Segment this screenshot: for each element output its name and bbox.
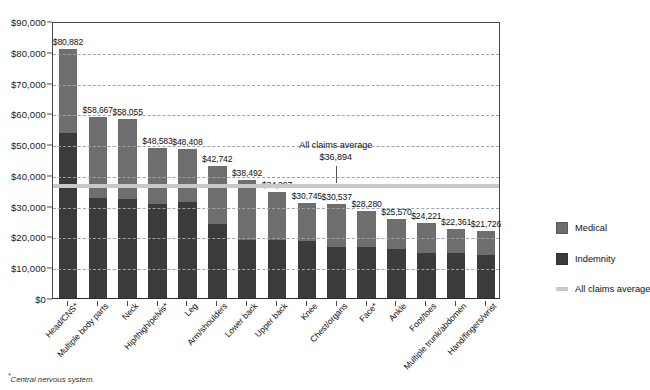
bar-segment-medical[interactable]	[298, 203, 317, 241]
bar-segment-indemnity[interactable]	[417, 253, 436, 298]
bar-value-label: $25,570	[381, 207, 411, 217]
average-annotation-label: All claims average	[276, 140, 396, 152]
y-axis: $0$10,000$20,000$30,000$40,000$50,000$60…	[0, 22, 52, 299]
bar-segment-medical[interactable]	[327, 204, 346, 247]
x-axis-labels: Head/CNS*Multiple body partsNeckHip/thig…	[52, 301, 500, 387]
bar-segment-indemnity[interactable]	[148, 204, 167, 298]
bar-segment-medical[interactable]	[238, 180, 257, 241]
bar-segment-indemnity[interactable]	[59, 133, 78, 298]
bar-segment-indemnity[interactable]	[89, 198, 108, 298]
bar-segment-medical[interactable]	[208, 166, 227, 224]
bar-segment-medical[interactable]	[477, 231, 496, 255]
bar-value-label: $24,221	[411, 211, 441, 221]
y-axis-tick-label: $10,000	[11, 263, 46, 274]
x-axis-tick-label: Knee	[298, 301, 319, 322]
y-axis-tick-label: $0	[35, 294, 46, 305]
x-axis-tick-label: Leg	[183, 301, 200, 318]
bar-group[interactable]: $21,726	[477, 231, 496, 298]
bar-segment-indemnity[interactable]	[208, 224, 227, 298]
bar-segment-medical[interactable]	[59, 49, 78, 133]
legend-color-swatch	[556, 253, 568, 265]
bar-group[interactable]: $25,570	[387, 219, 406, 298]
bar-segment-medical[interactable]	[387, 219, 406, 249]
bar-value-label: $58,667	[83, 105, 113, 115]
average-leader-line	[336, 166, 337, 183]
legend-item-label: All claims average	[575, 284, 650, 294]
average-annotation: All claims average $36,894	[276, 140, 396, 163]
y-axis-tick-label: $80,000	[11, 47, 46, 58]
bar-segment-medical[interactable]	[178, 149, 197, 202]
bar-group[interactable]: $30,745	[298, 203, 317, 298]
bar-group[interactable]: $48,408	[178, 149, 197, 298]
bar-segment-indemnity[interactable]	[357, 247, 376, 298]
bar-group[interactable]: $48,583	[148, 148, 167, 298]
y-axis-tick-label: $90,000	[11, 17, 46, 28]
footnote-text: Central nervous system.	[11, 375, 95, 384]
bar-segment-indemnity[interactable]	[477, 255, 496, 298]
bar-group[interactable]: $24,221	[417, 223, 436, 298]
bar-group[interactable]: $80,882	[59, 49, 78, 298]
bar-value-label: $42,742	[202, 154, 232, 164]
y-axis-tick-label: $30,000	[11, 201, 46, 212]
gridline	[53, 177, 499, 178]
bar-segment-medical[interactable]	[447, 229, 466, 253]
legend-color-swatch	[556, 222, 568, 234]
legend-item[interactable]: All claims average	[556, 284, 650, 294]
bar-value-label: $48,583	[142, 136, 172, 146]
bar-value-label: $30,537	[322, 192, 352, 202]
x-axis-tick-label: Neck	[120, 301, 140, 322]
footnote: *Central nervous system.	[8, 372, 95, 384]
bar-segment-indemnity[interactable]	[447, 253, 466, 298]
legend-item-label: Indemnity	[575, 254, 615, 264]
gridline	[53, 269, 499, 270]
bar-segment-indemnity[interactable]	[327, 247, 346, 298]
bar-value-label: $22,361	[441, 217, 471, 227]
legend-item-label: Medical	[575, 223, 607, 233]
legend-item[interactable]: Medical	[556, 222, 607, 234]
bar-group[interactable]: $30,537	[327, 204, 346, 298]
gridline	[53, 115, 499, 116]
gridline	[53, 54, 499, 55]
legend-line-swatch	[556, 287, 568, 291]
average-reference-band	[53, 184, 499, 188]
bar-group[interactable]: $22,361	[447, 229, 466, 298]
bar-segment-indemnity[interactable]	[387, 249, 406, 298]
x-axis-tick-label: Ankle	[387, 301, 409, 323]
gridline	[53, 85, 499, 86]
bar-group[interactable]: $28,280	[357, 211, 376, 298]
gridline	[53, 208, 499, 209]
legend-item[interactable]: Indemnity	[556, 253, 615, 265]
y-axis-tick-label: $60,000	[11, 109, 46, 120]
bar-segment-medical[interactable]	[268, 192, 287, 240]
bar-segment-medical[interactable]	[357, 211, 376, 247]
y-axis-tick-label: $70,000	[11, 78, 46, 89]
y-axis-tick-label: $50,000	[11, 140, 46, 151]
y-axis-tick-label: $40,000	[11, 170, 46, 181]
bar-value-label: $30,745	[292, 191, 322, 201]
bar-value-label: $21,726	[471, 219, 501, 229]
gridline	[53, 238, 499, 239]
y-axis-tick-label: $20,000	[11, 232, 46, 243]
average-annotation-value: $36,894	[276, 152, 396, 164]
bar-value-label: $80,882	[53, 37, 83, 47]
x-axis-tick-label: Face*	[357, 301, 379, 324]
bar-segment-indemnity[interactable]	[178, 202, 197, 298]
bar-segment-indemnity[interactable]	[118, 199, 137, 298]
